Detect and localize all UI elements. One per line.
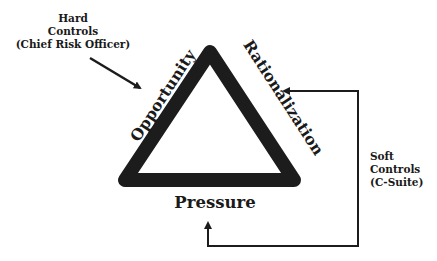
hard-controls-line1: Hard <box>8 12 138 25</box>
soft-controls-label: Soft Controls (C-Suite) <box>370 150 423 189</box>
fraud-triangle-diagram: Hard Controls (Chief Risk Officer) Oppor… <box>0 0 437 261</box>
hard-controls-line2: Controls <box>8 25 138 38</box>
soft-controls-line2: Controls <box>370 163 423 176</box>
hard-controls-line3: (Chief Risk Officer) <box>8 38 138 51</box>
pressure-label: Pressure <box>170 193 260 212</box>
soft-controls-line1: Soft <box>370 150 423 163</box>
hard-controls-arrow <box>90 58 140 88</box>
soft-controls-line3: (C-Suite) <box>370 176 423 189</box>
hard-controls-label: Hard Controls (Chief Risk Officer) <box>8 12 138 51</box>
